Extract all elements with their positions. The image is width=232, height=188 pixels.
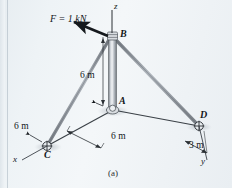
node-label-A: A <box>119 96 126 106</box>
z-axis-label: z <box>114 2 118 11</box>
y-axis-label: y <box>201 157 205 166</box>
dim-label-pole-height: 6 m <box>80 71 95 81</box>
force-label: F = 1 kN <box>50 14 86 24</box>
x-axis-label: x <box>13 155 17 164</box>
dim-pole-arrow-top <box>101 38 105 43</box>
figure-caption: (a) <box>108 169 118 178</box>
joint-A-ball <box>110 105 116 111</box>
dim-AD-ext-right <box>101 143 104 148</box>
dim-pole-tick <box>96 103 103 106</box>
dim-AD-line <box>67 131 101 148</box>
force-arrow <box>74 22 108 36</box>
dim-label-d-offset: 3 m <box>189 141 204 151</box>
dim-pole-arrow-bot <box>101 100 105 105</box>
cable-BC-edge <box>47 38 110 146</box>
node-label-D: D <box>200 110 207 120</box>
dim-label-y-offset: 6 m <box>111 132 126 142</box>
dim-AC-line <box>30 135 42 142</box>
dim-label-x-offset: 6 m <box>14 122 29 132</box>
dim-AD-arrow-r <box>95 144 101 148</box>
node-label-B: B <box>120 29 127 39</box>
pole-AB <box>109 37 117 109</box>
dim-AD-ext-left <box>67 126 70 131</box>
joint-B-collar <box>108 32 118 40</box>
node-label-C: C <box>44 150 51 160</box>
figure-drawing <box>0 0 232 188</box>
truss-figure: F = 1 kN z x y B A C D 6 m 6 m 6 m 3 m (… <box>0 0 232 188</box>
